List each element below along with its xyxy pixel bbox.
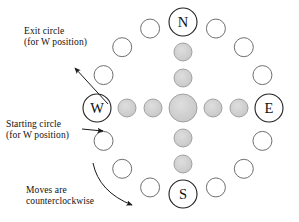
annotation-starting-circle: Starting circle (for W position) bbox=[6, 119, 69, 141]
cardinal-label-n: N bbox=[178, 14, 189, 30]
annotation-moves-direction: Moves are counterclockwise bbox=[26, 185, 94, 207]
cross-circle-v-2 bbox=[174, 129, 192, 147]
cross-circle-h-0 bbox=[118, 99, 136, 117]
ring-circle-14 bbox=[113, 38, 132, 57]
annotation-moves-line2: counterclockwise bbox=[26, 196, 94, 207]
ring-circle-11 bbox=[94, 131, 113, 150]
cardinal-label-w: W bbox=[90, 100, 104, 116]
annotation-moves-line1: Moves are bbox=[26, 185, 67, 195]
starting-arrow bbox=[82, 129, 103, 131]
cross-circle-h-2 bbox=[204, 99, 222, 117]
ring-circle-7 bbox=[206, 178, 225, 197]
diagram-canvas: NESW Exit circle (for W position) Starti… bbox=[0, 0, 299, 222]
ring-circle-5 bbox=[253, 131, 272, 150]
annotation-exit-circle: Exit circle (for W position) bbox=[24, 26, 87, 48]
cross-circle-v-0 bbox=[174, 43, 192, 61]
cross-circle-h-3 bbox=[230, 99, 248, 117]
ring-circle-10 bbox=[113, 159, 132, 178]
annotation-exit-line1: Exit circle bbox=[24, 26, 64, 36]
cross-circle-v-1 bbox=[174, 69, 192, 87]
cross-circle-v-3 bbox=[174, 155, 192, 173]
annotation-start-line1: Starting circle bbox=[6, 119, 61, 129]
cardinal-label-s: S bbox=[179, 186, 187, 202]
ring-circle-1 bbox=[206, 19, 225, 38]
ring-cardinal-w: W bbox=[83, 94, 111, 122]
ring-circle-3 bbox=[253, 66, 272, 85]
cardinal-label-e: E bbox=[265, 100, 274, 116]
inner-cross-group bbox=[118, 43, 248, 173]
ring-circle-15 bbox=[141, 19, 160, 38]
ring-cardinal-n: N bbox=[169, 8, 197, 36]
cross-center-circle bbox=[169, 94, 197, 122]
annotation-start-line2: (for W position) bbox=[6, 130, 69, 141]
ring-cardinal-e: E bbox=[255, 94, 283, 122]
ring-circle-2 bbox=[234, 38, 253, 57]
ring-circle-6 bbox=[234, 159, 253, 178]
ring-circle-13 bbox=[94, 66, 113, 85]
annotation-exit-line2: (for W position) bbox=[24, 37, 87, 48]
ring-circle-9 bbox=[141, 178, 160, 197]
ring-cardinal-s: S bbox=[169, 180, 197, 208]
cross-circle-h-1 bbox=[144, 99, 162, 117]
